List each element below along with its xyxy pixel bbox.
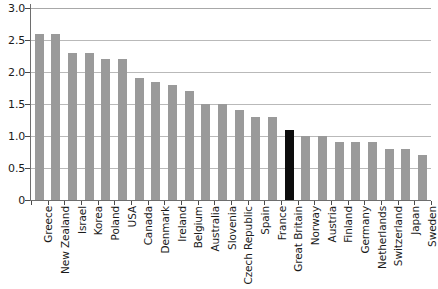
- x-axis-tick-mark: [264, 201, 265, 205]
- x-axis-category-label: France: [264, 206, 281, 286]
- bar-slot: [31, 8, 48, 200]
- x-axis-tick-mark: [148, 201, 149, 205]
- bar: [85, 53, 94, 200]
- x-axis-category-label: Germany: [348, 206, 365, 286]
- bar: [101, 59, 110, 200]
- bar-slot: [181, 8, 198, 200]
- y-axis-tick-mark: [25, 104, 30, 105]
- x-axis-tick-mark: [414, 201, 415, 205]
- bar-slot: [398, 8, 415, 200]
- bar-slot: [381, 8, 398, 200]
- bar-slot: [48, 8, 65, 200]
- x-axis-category-label: Ireland: [164, 206, 181, 286]
- bar: [301, 136, 310, 200]
- x-axis-category-label: Japan: [398, 206, 415, 286]
- x-axis-tick-mark: [48, 201, 49, 205]
- x-axis-category-label: Australia: [198, 206, 215, 286]
- x-axis-category-label: Canada: [131, 206, 148, 286]
- x-axis-tick-mark: [298, 201, 299, 205]
- bar-slot: [114, 8, 131, 200]
- x-axis-tick-mark: [248, 201, 249, 205]
- bar-slot: [131, 8, 148, 200]
- x-axis-category-label: Norway: [298, 206, 315, 286]
- y-axis-tick-mark: [25, 168, 30, 169]
- x-axis-category-label: Netherlands: [364, 206, 381, 286]
- bar: [135, 78, 144, 200]
- bar-slot: [64, 8, 81, 200]
- y-axis-tick-mark: [25, 136, 30, 137]
- x-axis-tick-mark: [331, 201, 332, 205]
- bar: [318, 136, 327, 200]
- bar-slot: [231, 8, 248, 200]
- x-axis-tick-mark: [381, 201, 382, 205]
- bar-slot: [98, 8, 115, 200]
- x-axis-category-label: Belgium: [181, 206, 198, 286]
- x-axis-tick-mark: [181, 201, 182, 205]
- y-axis-tick-mark: [25, 40, 30, 41]
- bar: [68, 53, 77, 200]
- x-axis-category-label: Slovenia: [214, 206, 231, 286]
- x-axis-category-label: USA: [114, 206, 131, 286]
- bar-slot: [148, 8, 165, 200]
- x-axis-tick-mark: [114, 201, 115, 205]
- bar: [168, 85, 177, 200]
- y-axis-tick-marks: [0, 0, 31, 289]
- bar-highlighted: [285, 130, 294, 200]
- bar-slot: [198, 8, 215, 200]
- bar-slot: [164, 8, 181, 200]
- x-axis-tick-mark: [64, 201, 65, 205]
- bar: [235, 110, 244, 200]
- bar: [35, 34, 44, 200]
- x-axis-tick-mark: [348, 201, 349, 205]
- bar-slot: [414, 8, 431, 200]
- x-axis-category-label: Switzerland: [381, 206, 398, 286]
- x-axis-tick-mark: [131, 201, 132, 205]
- bar-slot: [214, 8, 231, 200]
- x-axis-tick-mark: [214, 201, 215, 205]
- bar-slot: [298, 8, 315, 200]
- y-axis-tick-mark: [25, 72, 30, 73]
- bar-slot: [281, 8, 298, 200]
- x-axis-category-label: Poland: [98, 206, 115, 286]
- bar-slot: [264, 8, 281, 200]
- x-axis-tick-mark: [431, 201, 432, 205]
- x-axis-category-label: Spain: [248, 206, 265, 286]
- bar: [51, 34, 60, 200]
- bar-slot: [81, 8, 98, 200]
- x-axis-category-label: Czech Republic: [231, 206, 248, 286]
- bar: [201, 104, 210, 200]
- x-axis-category-label: Denmark: [148, 206, 165, 286]
- bar-series: [31, 8, 431, 200]
- bar: [385, 149, 394, 200]
- bar: [335, 142, 344, 200]
- x-axis-category-label: Finland: [331, 206, 348, 286]
- bar: [251, 117, 260, 200]
- x-axis-category-label: New Zealand: [48, 206, 65, 286]
- x-axis-category-label: Korea: [81, 206, 98, 286]
- x-axis-category-labels: GreeceNew ZealandIsraelKoreaPolandUSACan…: [31, 206, 431, 289]
- x-axis-tick-mark: [231, 201, 232, 205]
- bar-slot: [348, 8, 365, 200]
- bar: [118, 59, 127, 200]
- bar-slot: [364, 8, 381, 200]
- bar: [351, 142, 360, 200]
- x-axis-tick-mark: [314, 201, 315, 205]
- x-axis-category-label: Austria: [314, 206, 331, 286]
- bar: [218, 104, 227, 200]
- x-axis-category-label: Greece: [31, 206, 48, 286]
- x-axis-tick-mark: [364, 201, 365, 205]
- bar-slot: [331, 8, 348, 200]
- x-axis-tick-mark: [31, 201, 32, 205]
- bar: [418, 155, 427, 200]
- bar-slot: [248, 8, 265, 200]
- bar: [151, 82, 160, 200]
- x-axis-tick-mark: [198, 201, 199, 205]
- x-axis-category-label: Sweden: [414, 206, 431, 286]
- y-axis-tick-mark: [25, 200, 30, 201]
- x-axis-category-label-text: Sweden: [427, 206, 438, 247]
- x-axis-tick-mark: [98, 201, 99, 205]
- x-axis-category-label: Great Britain: [281, 206, 298, 286]
- y-axis-tick-mark: [25, 8, 30, 9]
- bar: [185, 91, 194, 200]
